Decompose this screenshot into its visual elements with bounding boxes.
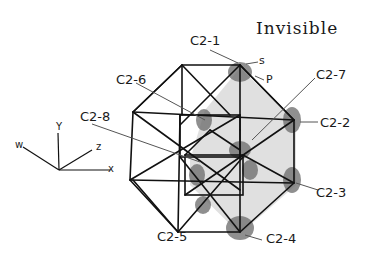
label-c2-6: C2-6 <box>116 73 146 86</box>
axis-label-x: x <box>108 164 114 174</box>
label-c2-1: C2-1 <box>190 34 220 47</box>
title-invisible: Invisible <box>256 20 338 37</box>
label-c2-7: C2-7 <box>316 68 346 81</box>
label-s: s <box>259 55 265 66</box>
axis-label-w: w <box>15 140 23 150</box>
label-c2-5: C2-5 <box>157 230 187 243</box>
axis-label-y: Y <box>56 122 62 132</box>
axis-label-z: z <box>96 142 101 152</box>
label-c2-8: C2-8 <box>80 110 110 123</box>
label-p: P <box>266 74 273 85</box>
label-c2-3: C2-3 <box>316 186 346 199</box>
label-c2-2: C2-2 <box>320 116 350 129</box>
diagram-canvas: Invisible C2-1 s P C2-7 C2-2 C2-3 C2-4 C… <box>0 0 368 260</box>
label-c2-4: C2-4 <box>266 232 296 245</box>
